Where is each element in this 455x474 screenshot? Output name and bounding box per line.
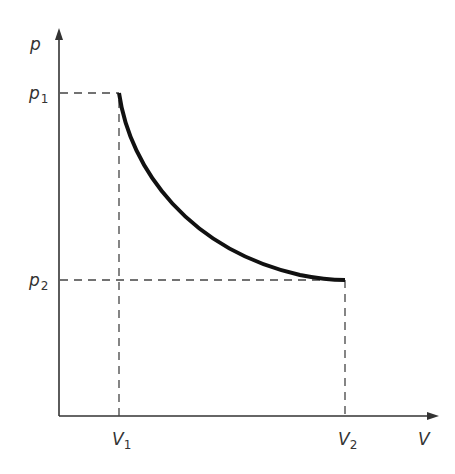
- pv-diagram: p V p1 p2 V1 V2: [0, 0, 455, 474]
- guide-lines: [60, 93, 345, 416]
- v1-label: V1: [112, 429, 131, 452]
- axes: [55, 28, 439, 420]
- process-curve: [119, 93, 345, 280]
- v2-label: V2: [338, 429, 357, 452]
- x-axis-label: V: [418, 429, 431, 449]
- y-axis-label: p: [29, 34, 41, 54]
- y-axis-arrow-icon: [55, 28, 63, 40]
- p1-label: p1: [28, 83, 48, 106]
- p2-label: p2: [28, 270, 48, 293]
- x-axis-arrow-icon: [427, 412, 439, 420]
